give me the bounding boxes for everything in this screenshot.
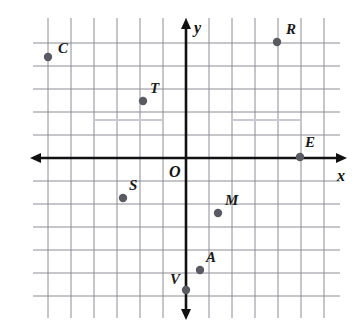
plotted-point-r [273, 38, 281, 46]
plotted-point-s [119, 194, 127, 202]
plotted-point-a [196, 266, 204, 274]
coordinate-plane-figure: O x y CRTESMAV [0, 0, 361, 332]
plotted-point-e [296, 153, 304, 161]
plotted-point-c [44, 53, 52, 61]
plotted-point-m [214, 209, 222, 217]
plotted-point-v [182, 286, 190, 294]
plotted-point-t [139, 97, 147, 105]
plotted-points-layer [0, 0, 361, 332]
